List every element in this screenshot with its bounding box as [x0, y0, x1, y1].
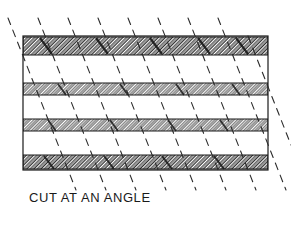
ply-1	[23, 37, 268, 55]
body-outline	[23, 36, 268, 170]
cut-at-an-angle-diagram	[0, 0, 291, 251]
ply-3	[23, 119, 268, 131]
ply-4	[23, 155, 268, 169]
ply-group	[23, 37, 268, 169]
ply-2	[23, 83, 268, 95]
figure-caption: CUT AT AN ANGLE	[29, 190, 151, 205]
figure-canvas: CUT AT AN ANGLE	[0, 0, 291, 251]
